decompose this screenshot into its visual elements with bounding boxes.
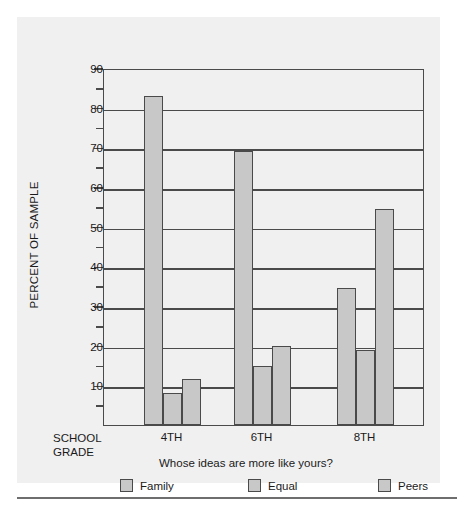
x-axis-title: SCHOOL GRADE [53, 431, 102, 459]
bar-6th-family [234, 151, 253, 425]
y-tick-major-30 [94, 306, 103, 308]
y-tick-minor-35 [96, 286, 103, 288]
chart-figure-panel: PERCENT OF SAMPLE 102030405060708090 4TH… [17, 17, 440, 483]
bar-6th-peers [272, 346, 291, 425]
y-tick-minor-45 [96, 247, 103, 249]
bar-8th-equal [356, 350, 375, 425]
bar-8th-peers [375, 209, 394, 425]
legend-swatch-icon [378, 479, 391, 492]
bar-4th-family [144, 96, 163, 425]
y-tick-major-20 [94, 346, 103, 348]
bar-4th-peers [182, 379, 201, 425]
y-tick-major-50 [94, 227, 103, 229]
y-axis-title: PERCENT OF SAMPLE [28, 165, 40, 325]
x-group-label-8th: 8TH [354, 431, 376, 443]
y-tick-label-50: 50 [41, 222, 103, 234]
y-tick-label-80: 80 [41, 103, 103, 115]
y-tick-minor-5 [96, 405, 103, 407]
y-tick-label-30: 30 [41, 301, 103, 313]
y-tick-label-90: 90 [41, 63, 103, 75]
footer-divider [17, 497, 457, 499]
legend-label: Peers [398, 480, 428, 492]
y-tick-minor-55 [96, 207, 103, 209]
y-tick-major-90 [94, 68, 103, 70]
legend-item-family[interactable]: Family [120, 479, 174, 492]
y-tick-label-40: 40 [41, 261, 103, 273]
bar-6th-equal [253, 366, 272, 426]
y-tick-major-10 [94, 386, 103, 388]
legend-item-equal[interactable]: Equal [248, 479, 297, 492]
x-axis-title-line2: GRADE [53, 445, 102, 459]
y-tick-major-80 [94, 108, 103, 110]
legend-label: Family [140, 480, 174, 492]
x-axis-title-line1: SCHOOL [53, 431, 102, 445]
bar-4th-equal [163, 393, 182, 425]
y-tick-minor-25 [96, 326, 103, 328]
y-tick-label-60: 60 [41, 182, 103, 194]
legend-swatch-icon [120, 479, 133, 492]
x-group-label-6th: 6TH [251, 431, 273, 443]
y-tick-label-20: 20 [41, 341, 103, 353]
y-tick-minor-85 [96, 88, 103, 90]
y-tick-label-70: 70 [41, 142, 103, 154]
y-tick-label-10: 10 [41, 380, 103, 392]
legend-swatch-icon [248, 479, 261, 492]
y-tick-major-40 [94, 267, 103, 269]
legend-label: Equal [268, 480, 297, 492]
y-tick-major-70 [94, 148, 103, 150]
y-tick-minor-75 [96, 128, 103, 130]
chart-legend: FamilyEqualPeers [120, 479, 420, 497]
x-group-label-4th: 4TH [161, 431, 183, 443]
y-tick-minor-65 [96, 167, 103, 169]
plot-area [103, 69, 424, 426]
y-tick-minor-15 [96, 366, 103, 368]
chart-subtitle: Whose ideas are more like yours? [159, 457, 333, 469]
legend-item-peers[interactable]: Peers [378, 479, 428, 492]
bar-8th-family [337, 288, 356, 425]
y-tick-major-60 [94, 187, 103, 189]
